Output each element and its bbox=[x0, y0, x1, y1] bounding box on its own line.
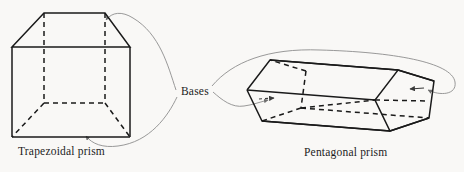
trapezoidal-prism-top-base bbox=[12, 13, 130, 47]
leader-to-trapezoid-top-curve bbox=[106, 13, 176, 90]
pentagonal-prism-hidden-edge-a bbox=[301, 71, 306, 108]
pentagonal-prism-hidden-edge-long bbox=[301, 108, 429, 118]
leader-lines-group bbox=[86, 13, 455, 146]
pentagonal-prism-top-silhouette bbox=[247, 60, 434, 90]
pentagonal-prism-long-edge-top bbox=[270, 60, 398, 70]
pointer-arrow-into-front-pentagon bbox=[410, 88, 424, 89]
bases-label: Bases bbox=[181, 85, 209, 97]
pentagonal-prism-caption: Pentagonal prism bbox=[304, 146, 387, 158]
pentagonal-prism bbox=[247, 60, 434, 131]
pentagonal-prism-hidden-edge-c bbox=[262, 108, 301, 121]
pentagonal-prism-hidden-edges bbox=[262, 60, 429, 121]
trapezoidal-prism-hidden-edge-bottom-right bbox=[105, 103, 130, 137]
geometry-figure-prism-bases: Bases Trapezoidal prism Pentagonal prism bbox=[0, 0, 464, 172]
trapezoidal-prism-hidden-edge-bottom-left bbox=[12, 103, 44, 137]
pointer-arrow-into-back-pentagon bbox=[259, 98, 274, 99]
pentagonal-prism-front-base-hidden-chord bbox=[375, 100, 429, 101]
leader-to-trapezoid-bottom-curve bbox=[86, 97, 177, 147]
trapezoidal-prism bbox=[12, 13, 130, 137]
trapezoidal-prism-caption: Trapezoidal prism bbox=[18, 145, 105, 157]
pentagonal-prism-long-edge-bottom bbox=[262, 121, 390, 131]
pentagonal-prism-left-chord bbox=[301, 100, 375, 108]
